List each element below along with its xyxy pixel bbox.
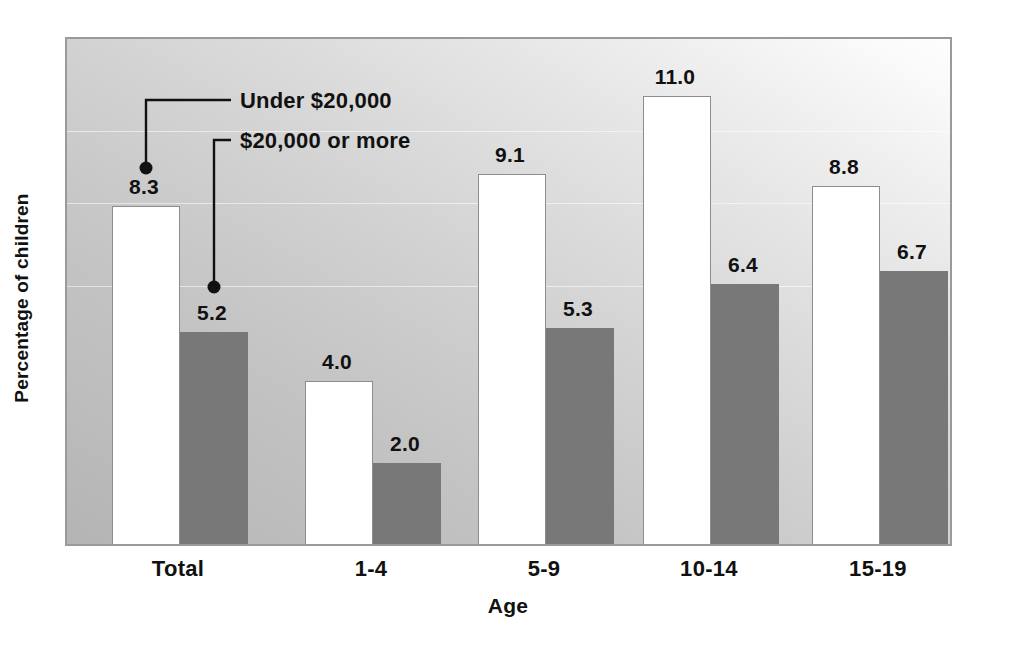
value-label-5-9-series-1: 9.1 [476,143,544,167]
x-tick-label-1-4: 1-4 [303,556,439,582]
bar-5-9-series-1 [478,174,546,544]
bar-10-14-series-2 [711,284,779,544]
value-label-total-series-2: 5.2 [178,301,246,325]
bar-15-19-series-1 [812,186,880,544]
x-tick-label-10-14: 10-14 [641,556,777,582]
x-tick-label-5-9: 5-9 [476,556,612,582]
bar-5-9-series-2 [546,328,614,544]
chart-figure: Percentage of children Under $20,000 $20… [0,0,1016,648]
plot-area [65,37,952,546]
bar-total-series-2 [180,332,248,544]
value-label-1-4-series-2: 2.0 [371,432,439,456]
value-label-total-series-1: 8.3 [110,175,178,199]
value-label-5-9-series-2: 5.3 [544,297,612,321]
bar-15-19-series-2 [880,271,948,544]
x-axis-title: Age [0,594,1016,618]
y-axis-title: Percentage of children [11,128,33,468]
value-label-10-14-series-1: 11.0 [641,65,709,89]
bar-1-4-series-1 [305,381,373,544]
x-tick-label-15-19: 15-19 [810,556,946,582]
value-label-15-19-series-1: 8.8 [810,155,878,179]
bar-10-14-series-1 [643,96,711,544]
x-tick-label-total: Total [110,556,246,582]
value-label-1-4-series-1: 4.0 [303,350,371,374]
bar-1-4-series-2 [373,463,441,544]
bar-total-series-1 [112,206,180,544]
value-label-15-19-series-2: 6.7 [878,240,946,264]
value-label-10-14-series-2: 6.4 [709,253,777,277]
